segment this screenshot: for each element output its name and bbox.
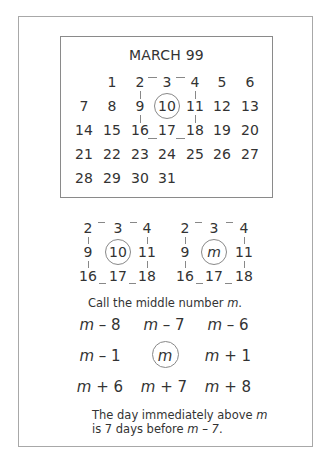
caption-explanation: The day immediately above m is 7 days be… [92,408,292,436]
day: 17 [152,122,182,138]
day: 6 [235,74,265,90]
caption-text: The day immediately above [92,408,256,422]
day: 14 [69,122,99,138]
cell: 17 [103,268,133,284]
caption-variable: m – 7 [187,422,219,436]
cell: 3 [199,220,229,236]
caption-text: Call the middle number [88,296,227,310]
outline-dash [147,237,148,244]
outline-dash [244,261,245,268]
day: 16 [125,122,155,138]
outline-dash [176,77,185,78]
calendar-title: MARCH 99 [60,47,273,63]
outline-dash [148,77,157,78]
cell: 16 [170,268,200,284]
outline-dash [226,222,233,223]
outline-dash [195,91,196,99]
day: 27 [235,146,265,162]
outline-dash [140,91,141,99]
outline-dash [147,261,148,268]
day: 23 [125,146,155,162]
outline-dash [99,283,106,284]
cell: 11 [229,244,259,260]
day: 30 [125,170,155,186]
cell: 18 [229,268,259,284]
cell: 4 [229,220,259,236]
outline-dash [140,115,141,123]
day: 1 [97,74,127,90]
day: 8 [97,98,127,114]
day: 11 [180,98,210,114]
cell: 16 [73,268,103,284]
highlight-circle [105,239,131,265]
outline-dash [176,138,185,139]
day: 12 [207,98,237,114]
outline-dash [148,138,157,139]
cell: 17 [199,268,229,284]
day: 13 [235,98,265,114]
expression: m + 7 [129,378,199,396]
caption-variable: m [256,408,267,422]
expression: m – 1 [65,347,135,365]
cell: 18 [132,268,162,284]
day: 24 [152,146,182,162]
day: 5 [207,74,237,90]
expression: m – 6 [193,316,263,334]
outline-dash [130,222,137,223]
outline-dash [88,237,89,244]
day: 21 [69,146,99,162]
expression: m – 7 [129,316,199,334]
day: 20 [235,122,265,138]
highlight-circle [154,93,180,119]
day: 7 [69,98,99,114]
outline-dash [185,261,186,268]
outline-dash [88,261,89,268]
caption-call-middle: Call the middle number m. [0,296,330,310]
day: 15 [97,122,127,138]
day: 29 [97,170,127,186]
day: 26 [207,146,237,162]
day: 25 [180,146,210,162]
expression: m + 6 [65,378,135,396]
caption-line-1: The day immediately above m [92,408,292,422]
cell: 9 [170,244,200,260]
cell: 9 [73,244,103,260]
outline-dash [196,283,203,284]
day: 9 [125,98,155,114]
day: 31 [152,170,182,186]
caption-variable: m [227,296,238,310]
caption-text: is 7 days before [92,422,187,436]
outline-dash [195,115,196,123]
cell: 3 [103,220,133,236]
outline-dash [185,237,186,244]
expression: m – 8 [65,316,135,334]
caption-line-2: is 7 days before m – 7. [92,422,292,436]
caption-end: . [219,422,223,436]
day: 22 [97,146,127,162]
day: 19 [207,122,237,138]
expression: m + 8 [193,378,263,396]
outline-dash [98,222,105,223]
day: 28 [69,170,99,186]
outline-dash [244,237,245,244]
highlight-circle [152,341,179,368]
cell: 11 [132,244,162,260]
outline-dash [225,283,232,284]
highlight-circle [201,239,227,265]
caption-end: . [238,296,242,310]
day: 18 [180,122,210,138]
outline-dash [129,283,136,284]
expression: m + 1 [193,347,263,365]
outline-dash [195,222,202,223]
